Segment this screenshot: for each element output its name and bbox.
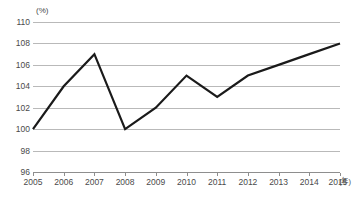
line-chart: (%) 110 108 106 104 102 100 98 96 2005 2…	[0, 0, 355, 199]
series-line-layer	[0, 0, 355, 199]
series-line	[33, 43, 340, 129]
